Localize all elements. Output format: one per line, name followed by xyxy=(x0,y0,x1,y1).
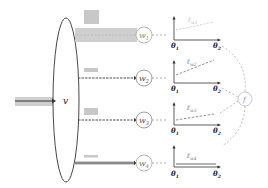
w2-theta2: θ2 xyxy=(213,84,221,94)
w2-x-arrow xyxy=(218,82,222,85)
w2-y-arrow xyxy=(173,60,176,64)
w4-theta1: θ1 xyxy=(171,169,179,179)
arc-w1-to-f xyxy=(222,46,245,92)
w3-x-arrow xyxy=(218,124,222,127)
w4-y-arrow xyxy=(173,145,176,149)
w3-loss-label: ℓw3 xyxy=(186,104,197,113)
w4-weight-bar xyxy=(84,155,98,158)
w1-x-arrow xyxy=(218,39,222,42)
w1-loss-label: ℓw1 xyxy=(187,16,198,25)
w3-y-arrow xyxy=(173,102,176,106)
w3-loss-line xyxy=(176,114,214,120)
v-label: v xyxy=(63,96,68,106)
arc-w3-to-f xyxy=(220,101,238,113)
arc-w2-to-f xyxy=(222,88,238,97)
arc-w4-to-f xyxy=(222,106,245,146)
w3-weight-bar xyxy=(84,108,98,115)
diagram-canvas: v w1 ℓw1 θ1 θ2 w2 ℓw2 θ1 θ2 w3 ℓw3 θ1 θ2 xyxy=(0,0,268,188)
w2-theta1: θ1 xyxy=(171,84,179,94)
w3-theta2: θ2 xyxy=(213,126,221,136)
w4-theta2: θ2 xyxy=(213,169,221,179)
w1-y-arrow xyxy=(173,16,176,20)
w2-weight-bar xyxy=(84,68,98,72)
w3-theta1: θ1 xyxy=(171,126,179,136)
w2-loss-label: ℓw2 xyxy=(186,58,197,67)
w1-theta2: θ2 xyxy=(213,41,221,51)
w4-loss-label: ℓw4 xyxy=(186,152,197,161)
w1-theta1: θ1 xyxy=(171,41,179,51)
w4-x-arrow xyxy=(218,166,222,169)
w1-weight-square xyxy=(84,10,99,24)
